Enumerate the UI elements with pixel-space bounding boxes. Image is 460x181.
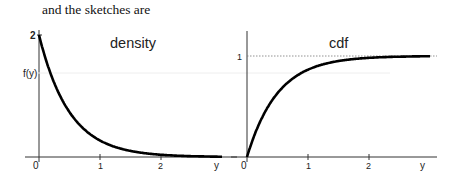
cdf-curve	[247, 56, 430, 157]
density-xtick-2: 2	[158, 161, 163, 171]
cdf-xtick-2: 2	[366, 161, 371, 171]
cdf-chart: 1 cdf 0 1 2 y	[231, 31, 437, 171]
density-xtick-0: 0	[33, 160, 39, 171]
cdf-xlabel: y	[420, 160, 425, 171]
density-xlabel: y	[214, 160, 219, 171]
density-xtick-1: 1	[98, 161, 103, 171]
cdf-xtick-0: 0	[241, 160, 247, 171]
cdf-title: cdf	[329, 35, 349, 51]
density-chart: 2 f(y) density 0 1 2 y	[23, 30, 390, 171]
density-title: density	[110, 35, 157, 51]
density-ylabel: f(y)	[23, 68, 37, 79]
cdf-ytick-1: 1	[237, 52, 242, 62]
density-curve	[39, 35, 222, 157]
density-ytick-2: 2	[30, 30, 36, 41]
cdf-xtick-1: 1	[306, 161, 311, 171]
sketch-figure: 2 f(y) density 0 1 2 y 1 cdf 0 1 2 y	[0, 0, 460, 181]
